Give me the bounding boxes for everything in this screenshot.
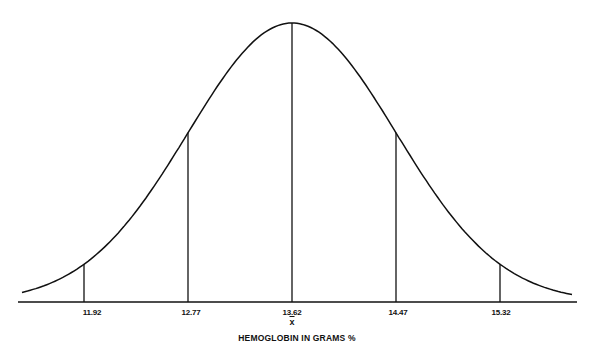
sigma-lines <box>84 23 500 302</box>
normal-curve-chart <box>0 0 594 352</box>
x-axis-title: HEMOGLOBIN IN GRAMS % <box>238 333 356 343</box>
tick-label-minus-2sd: 11.92 <box>83 308 102 317</box>
tick-label-minus-1sd: 12.77 <box>181 308 200 317</box>
mean-symbol: x <box>289 317 294 327</box>
bell-curve <box>22 23 572 295</box>
tick-label-plus-1sd: 14.47 <box>388 308 407 317</box>
tick-label-mean: 13.62 <box>282 308 301 317</box>
tick-label-plus-2sd: 15.32 <box>491 308 510 317</box>
